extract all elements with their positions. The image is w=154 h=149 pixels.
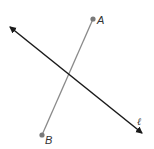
point-b [39, 132, 44, 137]
point-a [90, 16, 95, 21]
segment-ab [42, 19, 93, 135]
geometry-diagram: A B ℓ [0, 0, 154, 149]
point-a-label: A [96, 14, 104, 26]
line-l [10, 27, 142, 133]
line-l-label: ℓ [137, 116, 141, 127]
point-b-label: B [45, 134, 52, 146]
